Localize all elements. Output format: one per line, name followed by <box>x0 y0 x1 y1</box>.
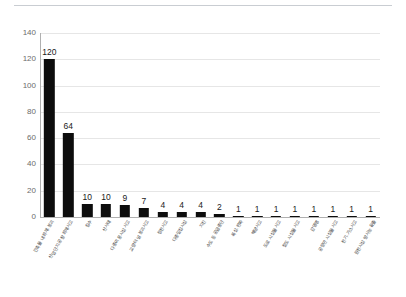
x-tick-label: 전기·가스사고 <box>341 219 359 244</box>
bar[interactable] <box>158 212 168 217</box>
bar[interactable] <box>195 212 205 217</box>
bar-slot: 4 <box>153 33 172 217</box>
bar-slot: 4 <box>172 33 191 217</box>
bar[interactable] <box>309 216 319 218</box>
x-tick-label: 철도 시설물 사고 <box>281 219 301 249</box>
bar-slot: 1 <box>361 33 380 217</box>
bar-value-label: 1 <box>312 205 317 214</box>
y-tick-label: 40 <box>2 160 36 168</box>
bar-value-label: 1 <box>349 205 354 214</box>
x-tick-label: 다중이용시설 사고 <box>110 219 132 251</box>
x-tick-label: 지진 <box>198 219 207 229</box>
bar-value-label: 1 <box>293 205 298 214</box>
bar-slot: 64 <box>59 33 78 217</box>
bar-slot: 2 <box>210 33 229 217</box>
bar[interactable] <box>233 216 243 218</box>
y-axis-labels: 020406080100120140 <box>0 0 36 297</box>
bar-value-label: 4 <box>198 201 203 210</box>
bar[interactable] <box>63 133 73 217</box>
bar-slot: 1 <box>229 33 248 217</box>
bar-value-label: 10 <box>101 193 110 202</box>
y-tick-label: 100 <box>2 82 36 90</box>
bar[interactable] <box>44 59 54 217</box>
bar[interactable] <box>290 216 300 218</box>
bar-value-label: 1 <box>330 205 335 214</box>
bar-slot: 120 <box>40 33 59 217</box>
x-tick-label: 공항만 시설물 사고 <box>317 219 339 253</box>
bar-value-label: 1 <box>274 205 279 214</box>
bar-slot: 10 <box>78 33 97 217</box>
bar[interactable] <box>176 212 186 217</box>
y-tick-label: 80 <box>2 108 36 116</box>
bar-slot: 10 <box>97 33 116 217</box>
bar-slot: 4 <box>191 33 210 217</box>
bar-value-label: 1 <box>368 205 373 214</box>
x-tick-label: 다중밀집시설 <box>171 219 188 243</box>
bar-slot: 9 <box>116 33 135 217</box>
x-tick-label: 침수 <box>85 219 94 229</box>
x-tick-label: 산사태 <box>102 219 113 232</box>
header-divider <box>14 5 392 6</box>
x-tick-label: 교량·터널 붕괴사고 <box>128 219 151 253</box>
bar-slot: 1 <box>323 33 342 217</box>
bar[interactable] <box>139 208 149 217</box>
bar-value-label: 64 <box>64 122 73 131</box>
bar-slot: 1 <box>248 33 267 217</box>
y-tick-label: 120 <box>2 55 36 63</box>
bar-value-label: 4 <box>160 201 165 210</box>
bar-slot: 7 <box>134 33 153 217</box>
x-tick-label: 폭설·한파 <box>231 219 245 237</box>
bar-slot: 1 <box>342 33 361 217</box>
x-tick-label: 수도 등 공급중단 <box>206 219 226 249</box>
x-tick-label: 감염병 <box>310 219 321 232</box>
bar-slot: 1 <box>267 33 286 217</box>
bar-value-label: 9 <box>123 194 128 203</box>
y-tick-label: 60 <box>2 134 36 142</box>
bar-value-label: 2 <box>217 203 222 212</box>
bar-value-label: 7 <box>142 197 147 206</box>
y-tick-label: 0 <box>2 213 36 221</box>
x-tick-label: 도로 시설물 사고 <box>262 219 282 249</box>
y-tick-label: 140 <box>2 29 36 37</box>
bar[interactable] <box>120 205 130 217</box>
bar[interactable] <box>214 214 224 217</box>
bar-value-label: 120 <box>42 48 56 57</box>
bar[interactable] <box>346 216 356 218</box>
bar[interactable] <box>328 216 338 218</box>
bar-value-label: 1 <box>255 205 260 214</box>
bars-layer: 12064101097444211111111 <box>40 33 380 217</box>
y-tick-label: 20 <box>2 187 36 195</box>
bar-chart: 020406080100120140 120641010974442111111… <box>0 0 406 297</box>
bar-slot: 1 <box>286 33 305 217</box>
bar-value-label: 4 <box>179 201 184 210</box>
x-tick-label: 해양사고 <box>251 219 264 236</box>
bar[interactable] <box>82 204 92 217</box>
bar-slot: 1 <box>304 33 323 217</box>
bar[interactable] <box>365 216 375 218</box>
bar[interactable] <box>101 204 111 217</box>
x-tick-label: 정전사고 <box>157 219 170 236</box>
x-axis-line <box>40 217 380 218</box>
bar-value-label: 10 <box>82 193 91 202</box>
bar-value-label: 1 <box>236 205 241 214</box>
bar[interactable] <box>252 216 262 218</box>
x-axis-category-labels: 건축물 내 화재·붕괴산업단지·공장 화재사고침수산사태다중이용시설 사고교량·… <box>40 219 380 297</box>
bar[interactable] <box>271 216 281 218</box>
